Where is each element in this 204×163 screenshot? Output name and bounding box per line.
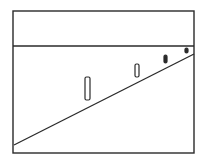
post-1 bbox=[85, 77, 90, 100]
post-2 bbox=[135, 64, 139, 77]
post-4 bbox=[185, 48, 188, 53]
ground-diagonal-line bbox=[14, 54, 194, 145]
post-3 bbox=[164, 55, 167, 63]
receding-posts bbox=[85, 48, 188, 100]
perspective-diagram bbox=[0, 0, 204, 163]
